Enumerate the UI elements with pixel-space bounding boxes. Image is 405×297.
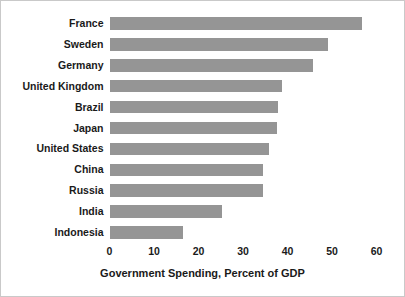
- category-label: United States: [36, 138, 103, 159]
- bar: [110, 101, 278, 114]
- x-tick-label: 40: [282, 245, 294, 257]
- bar: [110, 80, 283, 93]
- x-tick-label: 20: [193, 245, 205, 257]
- x-tick-label: 0: [107, 245, 113, 257]
- bar-row: India: [110, 201, 377, 222]
- category-label: Indonesia: [54, 222, 103, 243]
- x-tick-label: 50: [326, 245, 338, 257]
- bar-row: United Kingdom: [110, 76, 377, 97]
- category-label: United Kingdom: [22, 76, 103, 97]
- bar-row: France: [110, 13, 377, 34]
- category-label: Japan: [73, 118, 103, 139]
- bar: [110, 122, 278, 135]
- category-label: China: [74, 159, 103, 180]
- bar-row: Germany: [110, 55, 377, 76]
- category-label: Germany: [58, 55, 104, 76]
- bar-row: Sweden: [110, 34, 377, 55]
- x-axis-title: Government Spending, Percent of GDP: [1, 267, 404, 279]
- x-axis: 0102030405060: [110, 245, 377, 261]
- bar: [110, 184, 263, 197]
- bar: [110, 143, 269, 156]
- bar-row: Japan: [110, 118, 377, 139]
- bar: [110, 17, 363, 30]
- bar: [110, 38, 328, 51]
- bar-row: China: [110, 159, 377, 180]
- x-tick-label: 60: [371, 245, 383, 257]
- category-label: France: [69, 13, 103, 34]
- bar-row: Russia: [110, 180, 377, 201]
- bar: [110, 59, 314, 72]
- category-label: Brazil: [75, 97, 104, 118]
- bar-row: United States: [110, 138, 377, 159]
- x-tick-label: 30: [237, 245, 249, 257]
- category-label: Sweden: [64, 34, 104, 55]
- x-tick-label: 10: [148, 245, 160, 257]
- bar-chart-figure: FranceSwedenGermanyUnited KingdomBrazilJ…: [0, 0, 405, 297]
- bar: [110, 226, 184, 239]
- bar: [110, 164, 264, 177]
- category-label: Russia: [69, 180, 103, 201]
- bar-row: Indonesia: [110, 222, 377, 243]
- category-label: India: [79, 201, 104, 222]
- bar: [110, 205, 223, 218]
- plot-area: FranceSwedenGermanyUnited KingdomBrazilJ…: [110, 13, 377, 243]
- bar-row: Brazil: [110, 97, 377, 118]
